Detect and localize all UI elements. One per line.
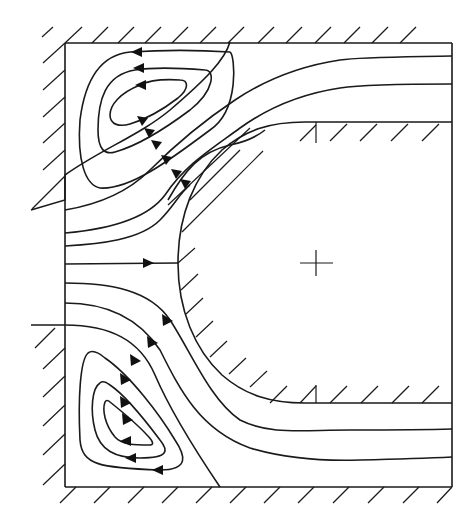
lower-left-vortex <box>79 352 182 470</box>
left-wall-hatching <box>32 43 65 485</box>
top-wall-hatching <box>42 27 416 43</box>
upper-channel-streamlines <box>31 42 452 233</box>
center-cross-marker <box>300 250 333 276</box>
streamline-diagram <box>0 0 469 529</box>
stagnation-streamline <box>65 185 190 268</box>
bottom-wall-hatching <box>60 487 452 503</box>
lower-channel-streamlines <box>31 283 452 487</box>
